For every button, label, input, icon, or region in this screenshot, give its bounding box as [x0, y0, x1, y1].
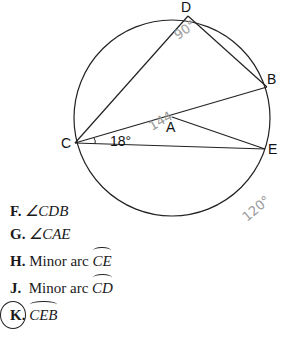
segment-ae — [172, 117, 265, 149]
label-e: E — [268, 141, 277, 157]
label-d: D — [181, 0, 191, 15]
answer-choices: F. ∠CDB G. ∠CAE H. Minor arc CE J. Minor… — [10, 200, 113, 327]
segment-ce — [75, 143, 265, 149]
label-c: C — [61, 135, 71, 151]
arc-symbol: CD — [92, 277, 113, 300]
choice-f[interactable]: F. ∠CDB — [10, 200, 113, 223]
label-b: B — [267, 71, 276, 87]
choice-k[interactable]: K. CEB — [10, 304, 113, 327]
circle-diagram: D B C E A 18° 90° 144 120° — [0, 0, 283, 230]
arc-symbol: CE — [92, 250, 111, 273]
handwritten-90: 90° — [171, 17, 198, 43]
choice-j[interactable]: J. Minor arc CD — [10, 277, 113, 300]
choice-g[interactable]: G. ∠CAE — [10, 223, 113, 246]
angle-label-18: 18° — [110, 133, 131, 149]
segment-db — [188, 16, 267, 87]
handwritten-120: 120° — [239, 193, 273, 225]
circled-answer-mark — [0, 301, 26, 329]
choice-h[interactable]: H. Minor arc CE — [10, 250, 113, 273]
arc-symbol: CEB — [29, 304, 57, 327]
